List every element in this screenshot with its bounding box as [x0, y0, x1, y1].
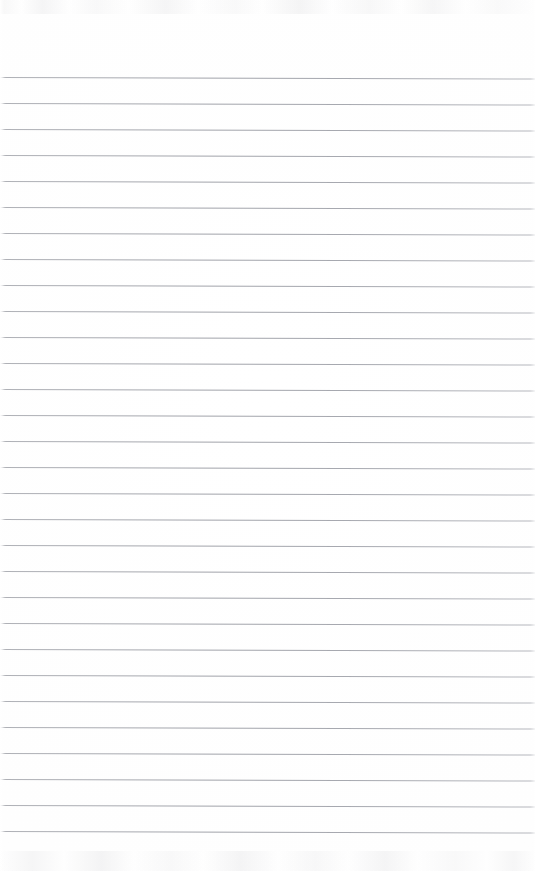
- rule-line: [0, 519, 535, 522]
- rule-line: [0, 597, 535, 600]
- rule-line: [0, 831, 535, 834]
- rule-line: [0, 129, 535, 132]
- rule-line: [0, 571, 535, 574]
- rule-line: [0, 285, 535, 288]
- rule-line: [0, 805, 535, 808]
- rule-line: [0, 337, 535, 340]
- scan-artifact-top-band: [0, 0, 535, 14]
- rule-line: [0, 155, 535, 158]
- ruled-lines-layer: [0, 0, 535, 871]
- right-edge-fade: [530, 0, 535, 871]
- rule-line: [0, 649, 535, 652]
- scan-artifact-bottom-band: [0, 851, 535, 871]
- rule-line: [0, 493, 535, 496]
- rule-line: [0, 389, 535, 392]
- rule-line: [0, 701, 535, 704]
- rule-line: [0, 103, 535, 106]
- rule-line: [0, 441, 535, 444]
- left-edge-fade: [0, 0, 4, 871]
- notebook-page: [0, 0, 535, 871]
- rule-line: [0, 207, 535, 210]
- rule-line: [0, 779, 535, 782]
- rule-line: [0, 727, 535, 730]
- rule-line: [0, 545, 535, 548]
- paper-surface: [0, 0, 535, 871]
- rule-line: [0, 363, 535, 366]
- rule-line: [0, 623, 535, 626]
- rule-line: [0, 675, 535, 678]
- rule-line: [0, 467, 535, 470]
- rule-line: [0, 415, 535, 418]
- rule-line: [0, 311, 535, 314]
- rule-line: [0, 233, 535, 236]
- rule-line: [0, 259, 535, 262]
- rule-line: [0, 77, 535, 80]
- rule-line: [0, 753, 535, 756]
- rule-line: [0, 181, 535, 184]
